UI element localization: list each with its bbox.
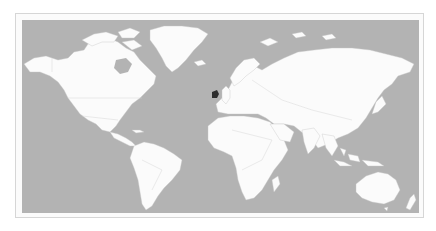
map-frame xyxy=(15,13,424,218)
world-map xyxy=(22,20,419,213)
